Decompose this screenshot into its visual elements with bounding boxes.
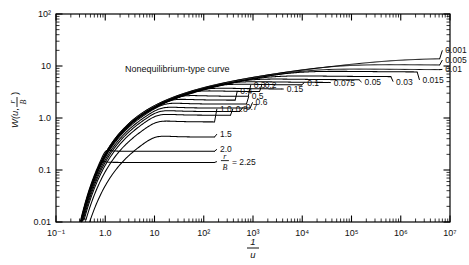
curve-label-0-01: 0.01 — [445, 64, 462, 74]
y-tick-label: 1.0 — [38, 113, 51, 123]
y-title-frac-denominator: B — [19, 99, 28, 104]
x-tick-label: 10² — [197, 228, 210, 238]
curve-label-0-075: 0.075 — [334, 78, 356, 88]
curve-label-1-0: 1.0 — [220, 104, 232, 114]
x-tick-label: 10⁵ — [345, 228, 359, 238]
y-title-close-paren: ) — [9, 92, 20, 95]
x-tick-label: 10 — [149, 228, 159, 238]
y-tick-label: 10² — [38, 9, 51, 19]
x-tick-label: 10⁴ — [295, 228, 309, 238]
curve-label-0-2: 0.2 — [265, 80, 277, 90]
rb-frac-denominator: B — [222, 163, 227, 172]
y-axis-title-text: W(u, — [9, 108, 20, 128]
curve-label-0-3: 0.3 — [254, 80, 266, 90]
x-tick-label: 1.0 — [99, 228, 112, 238]
x-title-numerator: 1 — [250, 236, 255, 247]
curve-label-0-001: 0.001 — [445, 45, 467, 55]
curve-label-0-05: 0.05 — [365, 77, 382, 87]
curve-label-0-03: 0.03 — [396, 77, 413, 87]
curve-label-0-4: 0.4 — [240, 86, 252, 96]
x-title-denominator: u — [250, 249, 256, 260]
y-tick-label: 0.1 — [38, 165, 51, 175]
curve-label-value: = 2.25 — [232, 157, 256, 167]
curve-label-0-015: 0.015 — [422, 75, 444, 85]
y-tick-label: 10 — [41, 61, 51, 71]
curve-label-0-1: 0.1 — [307, 78, 319, 88]
well-function-type-curve-plot: 10⁻¹1.01010²10³10⁴10⁵10⁶10⁷ 10²101.00.10… — [0, 0, 469, 265]
x-tick-label: 10⁶ — [394, 228, 408, 238]
curve-label-1-5: 1.5 — [220, 129, 232, 139]
y-title-main: W(u, — [9, 108, 20, 128]
x-tick-label: 10⁻¹ — [47, 228, 65, 238]
y-tick-label: 0.01 — [33, 217, 51, 227]
curve-label-0-8: 0.8 — [236, 104, 248, 114]
x-tick-label: 10⁷ — [443, 228, 456, 238]
curve-label-0-15: 0.15 — [287, 84, 304, 94]
nonequilibrium-annotation: Nonequilibrium-type curve — [125, 64, 230, 74]
chart-figure: 10⁻¹1.01010²10³10⁴10⁵10⁶10⁷ 10²101.00.10… — [0, 0, 469, 265]
figure-background — [0, 0, 469, 265]
